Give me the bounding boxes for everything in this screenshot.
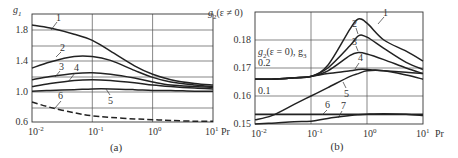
curve-5 xyxy=(255,70,423,119)
panel-a-xtick-10: 101 xyxy=(205,125,219,137)
panel-a-caption: (a) xyxy=(110,141,123,154)
panel-b-xtick-1: 100 xyxy=(363,127,377,139)
curve-label-a-5: 5 xyxy=(108,95,113,106)
panel-a-xlabel: Pr xyxy=(221,126,231,137)
panel-b-ylabel: g2(ε ≠ 0) xyxy=(208,7,243,21)
curve-label-b-4: 4 xyxy=(358,52,363,63)
chart-svg: g1 1.8 1.4 1.0 0.6 10-2 10-1 100 101 Pr … xyxy=(0,0,458,158)
panel-b-xtick-0.1: 10-1 xyxy=(307,127,323,139)
panel-b-inner-tick-0.1: 0.1 xyxy=(258,85,271,96)
panel-b-ytick-0.16: 0.16 xyxy=(234,90,252,101)
curve-label-a-2: 2 xyxy=(60,42,65,53)
curve-label-b-7: 7 xyxy=(341,100,346,111)
curve-6 xyxy=(32,102,213,121)
curve-label-a-1: 1 xyxy=(56,12,61,23)
panel-a-xtick-1: 100 xyxy=(148,125,162,137)
curve-label-a-4: 4 xyxy=(74,62,79,73)
curve-label-a-6: 6 xyxy=(58,90,63,101)
panel-a-ytick-1.0: 1.0 xyxy=(16,86,29,97)
panel-a: g1 1.8 1.4 1.0 0.6 10-2 10-1 100 101 Pr … xyxy=(13,4,231,154)
panel-a-ytick-1.4: 1.4 xyxy=(16,55,29,66)
panel-b-caption: (b) xyxy=(331,140,344,153)
panel-b-curve-labels: 1 2 3 4 5 6 7 xyxy=(322,7,388,118)
panel-b-xtick-10: 101 xyxy=(416,127,430,139)
panel-b-ytick-0.15: 0.15 xyxy=(234,118,252,129)
panel-b-ytick-0.17: 0.17 xyxy=(234,62,252,73)
curve-label-b-1: 1 xyxy=(383,7,388,18)
curve-4 xyxy=(255,69,423,79)
curve-3 xyxy=(32,73,213,88)
curve-label-b-2: 2 xyxy=(352,18,357,29)
curve-label-a-3: 3 xyxy=(59,61,64,72)
panel-b-inner-tick-0.2: 0.2 xyxy=(258,57,271,68)
panel-a-xtick-0.01: 10-2 xyxy=(28,125,44,137)
panel-a-curves xyxy=(32,25,213,121)
figure: g1 1.8 1.4 1.0 0.6 10-2 10-1 100 101 Pr … xyxy=(0,0,458,158)
panel-a-ytick-1.8: 1.8 xyxy=(16,24,29,35)
panel-b-grid xyxy=(255,12,423,124)
panel-b-ytick-0.18: 0.18 xyxy=(234,34,252,45)
panel-a-xtick-0.1: 10-1 xyxy=(88,125,104,137)
panel-b-xtick-0.01: 10-2 xyxy=(251,127,267,139)
curve-label-b-6: 6 xyxy=(325,99,330,110)
panel-a-ylabel: g1 xyxy=(13,4,22,18)
panel-b-xlabel: Pr xyxy=(435,128,445,139)
curve-label-b-3: 3 xyxy=(352,36,357,47)
panel-a-ytick-0.6: 0.6 xyxy=(16,116,29,127)
panel-b-curves xyxy=(255,19,423,124)
curve-label-b-5: 5 xyxy=(344,88,349,99)
panel-b: g2(ε ≠ 0) 0.18 0.17 0.16 0.15 g2(ε = 0),… xyxy=(208,7,445,153)
